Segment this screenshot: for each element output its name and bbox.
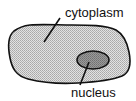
nucleus [77,51,109,69]
cell-diagram: cytoplasm nucleus [0,0,136,101]
nucleus-label: nucleus [71,85,116,100]
cell-membrane [9,25,130,84]
cytoplasm-label: cytoplasm [65,5,124,20]
